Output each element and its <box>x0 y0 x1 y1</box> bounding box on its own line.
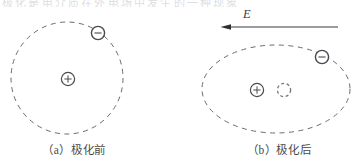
panel-a-positive-nucleus <box>61 72 74 85</box>
panel-b-positive-nucleus <box>250 83 263 96</box>
polarization-diagram <box>0 0 363 164</box>
caption-panel-a: （a）极化前 <box>0 145 148 157</box>
panel-b-group <box>202 24 350 133</box>
figure-canvas: 极化是电介质在外电场中发生的一种现象 <box>0 0 363 164</box>
panel-b-negative-charge-center-ghost <box>277 83 290 96</box>
panel-a-negative-electron <box>91 26 104 39</box>
panel-a-group <box>11 22 123 134</box>
electric-field-arrow <box>221 24 339 30</box>
caption-panel-b: （b）极化后 <box>205 145 353 157</box>
electric-field-label: E <box>243 8 251 21</box>
panel-b-negative-electron <box>315 50 328 63</box>
